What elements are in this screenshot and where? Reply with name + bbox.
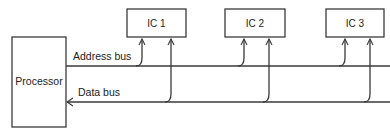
data-bus-label: Data bus bbox=[78, 86, 120, 98]
data-bus: Data bus bbox=[67, 86, 390, 106]
data-branch-ic-1 bbox=[165, 39, 174, 102]
processor-label: Processor bbox=[15, 75, 63, 87]
address-bus: Address bus bbox=[66, 50, 390, 66]
ic-2-label: IC 2 bbox=[246, 18, 265, 29]
address-branch-ic-3 bbox=[339, 39, 348, 66]
ic-2-block: IC 2 bbox=[225, 9, 285, 37]
address-bus-label: Address bus bbox=[73, 50, 131, 62]
data-branch-line-ic-1 bbox=[165, 39, 171, 102]
ic-1-block: IC 1 bbox=[127, 9, 186, 37]
bus-diagram: Processor IC 1 IC 2 IC 3 Address bus Dat… bbox=[0, 0, 390, 132]
address-branch-ic-2 bbox=[238, 39, 247, 66]
data-branch-ic-3 bbox=[364, 39, 373, 102]
address-branch-ic-1 bbox=[136, 39, 145, 66]
data-branch-ic-2 bbox=[263, 39, 272, 102]
processor-block: Processor bbox=[12, 37, 66, 127]
address-branch-line-ic-1 bbox=[136, 39, 142, 66]
address-branch-line-ic-2 bbox=[238, 39, 244, 66]
ic-3-label: IC 3 bbox=[346, 18, 365, 29]
ic-1-label: IC 1 bbox=[147, 18, 166, 29]
data-branch-line-ic-2 bbox=[263, 39, 269, 102]
ic-3-block: IC 3 bbox=[326, 9, 384, 37]
data-branch-line-ic-3 bbox=[364, 39, 370, 102]
address-branch-line-ic-3 bbox=[339, 39, 345, 66]
